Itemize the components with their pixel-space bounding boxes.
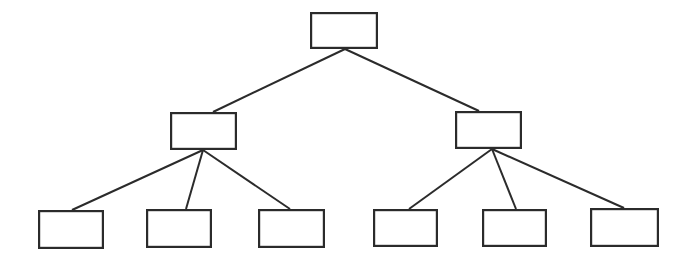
- nodes-layer: [39, 13, 658, 248]
- leaf-node-6[interactable]: [591, 209, 658, 246]
- connector-branch-right-to-leaf-4: [409, 149, 492, 209]
- leaf-node-1[interactable]: [39, 211, 103, 248]
- tree-diagram-canvas: [0, 0, 687, 261]
- connector-branch-left-to-leaf-1: [72, 150, 203, 210]
- connector-branch-left-to-leaf-2: [186, 150, 203, 209]
- leaf-node-1-box[interactable]: [39, 211, 103, 248]
- leaf-node-2-box[interactable]: [147, 210, 211, 247]
- leaf-node-3-box[interactable]: [259, 210, 324, 247]
- branch-node-right-box[interactable]: [456, 112, 521, 148]
- leaf-node-6-box[interactable]: [591, 209, 658, 246]
- leaf-node-5[interactable]: [483, 210, 546, 246]
- tree-diagram: [0, 0, 687, 261]
- leaf-node-4[interactable]: [374, 210, 437, 246]
- branch-node-left[interactable]: [171, 113, 236, 149]
- connector-root-to-branch-left: [213, 49, 345, 112]
- branch-node-left-box[interactable]: [171, 113, 236, 149]
- root-node-box[interactable]: [311, 13, 377, 48]
- connector-root-to-branch-right: [345, 49, 479, 111]
- leaf-node-2[interactable]: [147, 210, 211, 247]
- connector-branch-left-to-leaf-3: [203, 150, 290, 209]
- connectors-layer: [72, 49, 624, 210]
- leaf-node-5-box[interactable]: [483, 210, 546, 246]
- leaf-node-4-box[interactable]: [374, 210, 437, 246]
- branch-node-right[interactable]: [456, 112, 521, 148]
- root-node[interactable]: [311, 13, 377, 48]
- leaf-node-3[interactable]: [259, 210, 324, 247]
